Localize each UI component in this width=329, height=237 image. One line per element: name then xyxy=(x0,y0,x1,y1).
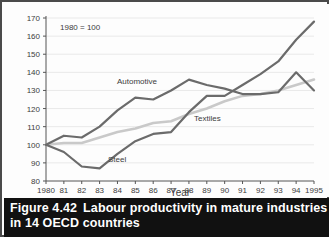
caption-figure-number: Figure 4.42 xyxy=(10,201,77,215)
figure-frame: 8090100110120130140150160170 19808182838… xyxy=(0,0,329,237)
x-axis-tick-label: 92 xyxy=(256,186,265,195)
data-series-lines xyxy=(46,22,314,169)
x-axis-tick-label: 89 xyxy=(202,186,211,195)
caption-title-part1: Labour productivity in mature industries xyxy=(83,201,327,215)
x-axis-tick-label: 94 xyxy=(292,186,301,195)
y-axis-tick-label: 140 xyxy=(27,68,41,77)
y-axis-tick-label: 80 xyxy=(31,177,40,186)
x-axis-title: Year xyxy=(170,187,191,197)
chart-axes xyxy=(46,16,314,181)
x-axis-tick-label: 1995 xyxy=(305,186,323,195)
series-label-steel: Steel xyxy=(108,155,126,164)
x-axis-tick-label: 1980 xyxy=(37,186,55,195)
x-axis-tick-label: 84 xyxy=(113,186,122,195)
y-axis-tick-label: 150 xyxy=(27,50,41,59)
y-axis-tick-labels: 8090100110120130140150160170 xyxy=(27,14,41,186)
figure-caption: Figure 4.42Labour productivity in mature… xyxy=(4,198,329,237)
x-axis-tick-label: 83 xyxy=(95,186,104,195)
series-label-automotive: Automotive xyxy=(117,77,158,86)
y-axis-tick-label: 110 xyxy=(27,123,40,132)
chart-plot-area: 8090100110120130140150160170 19808182838… xyxy=(4,4,329,197)
grid-lines xyxy=(43,18,314,181)
x-axis-tick-label: 85 xyxy=(131,186,140,195)
y-axis-tick-label: 90 xyxy=(31,159,40,168)
figure-container: 8090100110120130140150160170 19808182838… xyxy=(0,0,329,237)
y-axis-tick-label: 160 xyxy=(27,32,41,41)
x-axis-tick-label: 81 xyxy=(59,186,68,195)
line-chart: 8090100110120130140150160170 19808182838… xyxy=(4,4,329,197)
x-axis-tick-label: 93 xyxy=(274,186,283,195)
y-axis-tick-label: 170 xyxy=(27,14,41,23)
series-line-steel xyxy=(46,22,314,169)
x-axis-tick-label: 90 xyxy=(220,186,229,195)
y-axis-tick-label: 120 xyxy=(27,105,41,114)
x-axis-tick-label: 86 xyxy=(149,186,158,195)
caption-first-line: Figure 4.42Labour productivity in mature… xyxy=(10,201,323,216)
baseline-note: 1980 = 100 xyxy=(60,23,101,32)
y-axis-tick-label: 130 xyxy=(27,86,41,95)
series-label-textiles: Textiles xyxy=(194,114,221,123)
x-axis-tick-label: 91 xyxy=(238,186,247,195)
x-axis-tick-label: 82 xyxy=(77,186,86,195)
y-axis-tick-label: 100 xyxy=(27,141,41,150)
caption-second-line: in 14 OECD countries xyxy=(10,216,323,231)
